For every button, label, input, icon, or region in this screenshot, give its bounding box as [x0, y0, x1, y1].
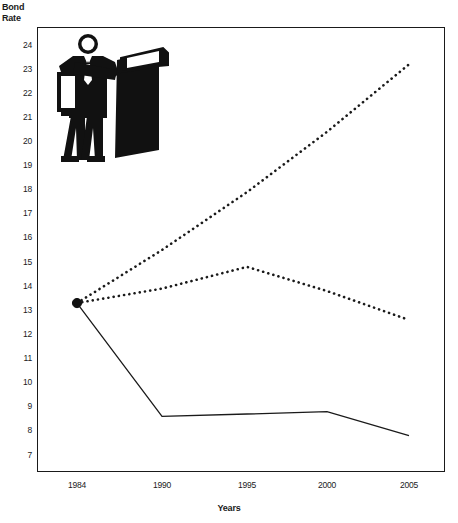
y-tick-label: 10 [2, 378, 32, 387]
businessman-with-briefcase-illustration [55, 28, 175, 168]
x-tick-label: 1984 [52, 481, 102, 490]
x-tick-label: 1990 [137, 481, 187, 490]
x-tick-label: 1995 [222, 481, 272, 490]
y-tick-label: 11 [2, 354, 32, 363]
y-tick-label: 8 [2, 426, 32, 435]
y-tick-label: 18 [2, 185, 32, 194]
y-tick-label: 7 [2, 451, 32, 460]
y-tick-label: 13 [2, 306, 32, 315]
y-tick-label: 16 [2, 233, 32, 242]
y-tick-label: 22 [2, 89, 32, 98]
y-tick-label: 23 [2, 65, 32, 74]
y-tick-label: 12 [2, 330, 32, 339]
x-tick-label: 2005 [384, 481, 434, 490]
x-tick-label: 2000 [302, 481, 352, 490]
y-tick-label: 17 [2, 209, 32, 218]
y-tick-label: 9 [2, 402, 32, 411]
y-tick-label: 14 [2, 282, 32, 291]
chart-page: Bond Rate 242322212019181716151413121110… [0, 0, 458, 523]
y-tick-label: 24 [2, 41, 32, 50]
x-axis-title: Years [0, 503, 458, 513]
y-tick-label: 15 [2, 258, 32, 267]
y-tick-label: 20 [2, 137, 32, 146]
y-tick-label: 21 [2, 113, 32, 122]
y-tick-label: 19 [2, 161, 32, 170]
